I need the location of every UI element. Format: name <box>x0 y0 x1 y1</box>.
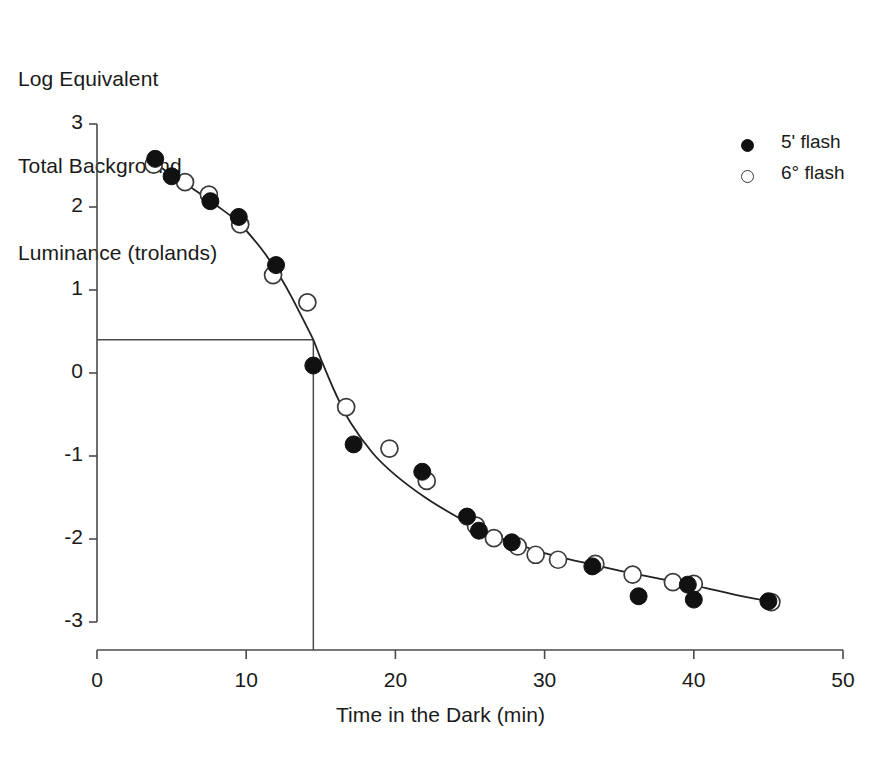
data-point-filled-1 <box>163 168 180 185</box>
data-point-filled-0 <box>147 150 164 167</box>
data-point-filled-11 <box>584 558 601 575</box>
data-point-filled-9 <box>470 522 487 539</box>
data-point-filled-14 <box>685 591 702 608</box>
data-point-open-6 <box>338 399 355 416</box>
y-tick-label-1: 2 <box>37 193 83 217</box>
data-point-open-13 <box>550 551 567 568</box>
x-tick-label-1: 10 <box>216 668 276 692</box>
data-point-open-5 <box>299 294 316 311</box>
dark-adaptation-chart: Log Equivalent Total Background Luminanc… <box>0 0 881 761</box>
data-point-filled-15 <box>760 593 777 610</box>
data-point-open-7 <box>381 440 398 457</box>
data-point-filled-5 <box>305 357 322 374</box>
legend-marker-open-circle-icon <box>741 170 754 183</box>
data-point-filled-7 <box>414 463 431 480</box>
data-point-filled-4 <box>268 257 285 274</box>
data-point-filled-3 <box>230 208 247 225</box>
legend-label-1: 6° flash <box>781 162 845 184</box>
y-tick-label-5: -2 <box>37 525 83 549</box>
data-point-open-15 <box>624 566 641 583</box>
x-tick-label-4: 40 <box>664 668 724 692</box>
y-tick-label-4: -1 <box>37 442 83 466</box>
x-tick-label-0: 0 <box>67 668 127 692</box>
data-point-open-12 <box>527 546 544 563</box>
data-point-filled-6 <box>345 436 362 453</box>
y-tick-label-6: -3 <box>37 608 83 632</box>
legend-label-0: 5' flash <box>781 131 841 153</box>
data-point-filled-12 <box>630 588 647 605</box>
data-point-filled-2 <box>202 193 219 210</box>
y-tick-label-3: 0 <box>37 359 83 383</box>
x-tick-label-5: 50 <box>813 668 873 692</box>
plot-area <box>0 0 881 761</box>
legend-marker-filled-circle-icon <box>741 139 754 152</box>
data-point-filled-10 <box>503 534 520 551</box>
data-point-filled-8 <box>459 508 476 525</box>
y-tick-label-2: 1 <box>37 276 83 300</box>
data-point-open-16 <box>664 574 681 591</box>
x-tick-label-2: 20 <box>365 668 425 692</box>
y-tick-label-0: 3 <box>37 110 83 134</box>
data-point-open-10 <box>485 530 502 547</box>
x-tick-label-3: 30 <box>515 668 575 692</box>
